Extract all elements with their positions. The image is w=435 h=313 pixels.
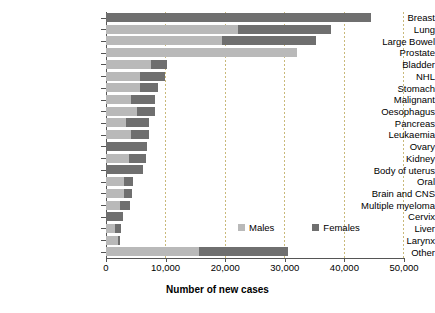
bar-segment-females — [106, 142, 147, 151]
bar-segment-females — [118, 236, 120, 245]
bar-segment-males — [106, 189, 124, 198]
bar-segment-females — [106, 212, 123, 221]
y-axis-label: Body of uterus — [335, 166, 435, 176]
y-axis-label: Cervix — [335, 212, 435, 222]
bar-segment-males — [106, 25, 238, 34]
bar-segment-females — [120, 201, 130, 210]
y-axis-label: Prostate — [335, 48, 435, 58]
y-axis-label: Multiple myeloma — [335, 201, 435, 211]
bar-segment-males — [106, 177, 124, 186]
bar-segment-males — [106, 154, 129, 163]
bar-segment-males — [106, 130, 131, 139]
bar-segment-females — [140, 72, 165, 81]
bar-segment-males — [106, 224, 115, 233]
bar-segment-females — [140, 83, 158, 92]
bar-segment-females — [106, 165, 143, 174]
y-axis-label: Ovary — [335, 142, 435, 152]
cancer-incidence-bar-chart: BreastLungLarge BowelProstateBladderNHLS… — [0, 0, 435, 313]
x-axis-title: Number of new cases — [0, 284, 435, 295]
x-axis-tick-label: 0 — [103, 262, 108, 273]
bar-segment-males — [106, 236, 118, 245]
y-axis-label: Malignant — [335, 95, 435, 105]
bar-segment-females — [199, 247, 288, 256]
bar-segment-males — [106, 107, 137, 116]
bar-segment-males — [106, 60, 151, 69]
y-axis-tick — [101, 76, 106, 77]
y-axis-label: Bladder — [335, 60, 435, 70]
y-axis-tick — [101, 29, 106, 30]
x-axis-tick-label: 50,000 — [389, 262, 418, 273]
legend-label-females: Females — [323, 222, 359, 233]
bar-segment-males — [106, 247, 199, 256]
y-axis-label: Large Bowel — [335, 37, 435, 47]
bar-segment-males — [106, 201, 120, 210]
bar-segment-females — [124, 177, 133, 186]
males-swatch-icon — [238, 224, 245, 231]
y-axis-label: Oral — [335, 177, 435, 187]
y-axis-tick — [101, 228, 106, 229]
y-axis-tick — [101, 53, 106, 54]
y-axis-tick — [101, 88, 106, 89]
y-axis-tick — [101, 240, 106, 241]
y-axis-tick — [101, 170, 106, 171]
bar-segment-females — [131, 130, 149, 139]
legend-item-females: Females — [312, 222, 359, 233]
y-axis-tick — [101, 135, 106, 136]
bar-segment-males — [106, 48, 297, 57]
y-axis-tick — [101, 146, 106, 147]
females-swatch-icon — [312, 224, 319, 231]
y-axis-tick — [101, 205, 106, 206]
bar-segment-females — [115, 224, 121, 233]
y-axis-tick — [101, 158, 106, 159]
bar-segment-males — [106, 36, 222, 45]
bar-segment-females — [137, 107, 155, 116]
y-axis-label: Other — [335, 248, 435, 258]
y-axis-label: NHL — [335, 72, 435, 82]
y-axis-tick — [101, 252, 106, 253]
y-axis-label: Brain and CNS — [335, 189, 435, 199]
y-axis-tick — [101, 193, 106, 194]
y-axis-label: Breast — [335, 13, 435, 23]
bar-segment-males — [106, 72, 140, 81]
x-axis-tick-label: 10,000 — [151, 262, 180, 273]
bar-segment-females — [126, 118, 149, 127]
y-axis-label: Lung — [335, 25, 435, 35]
x-axis-tick-label: 20,000 — [211, 262, 240, 273]
bar-segment-females — [222, 36, 316, 45]
bar-segment-females — [124, 189, 132, 198]
legend-item-males: Males — [238, 222, 274, 233]
y-axis-tick — [101, 217, 106, 218]
y-axis-tick — [101, 18, 106, 19]
y-axis-tick — [101, 111, 106, 112]
bar-segment-females — [106, 13, 371, 22]
bar-segment-females — [151, 60, 167, 69]
y-axis-label: Larynx — [335, 236, 435, 246]
bar-segment-males — [106, 118, 126, 127]
y-axis-label: Kidney — [335, 154, 435, 164]
bar-segment-females — [129, 154, 146, 163]
bar-segment-males — [106, 83, 140, 92]
y-axis-label: Leukaemia — [335, 130, 435, 140]
x-axis-tick-label: 40,000 — [330, 262, 359, 273]
y-axis-label: Stomach — [335, 84, 435, 94]
bar-segment-females — [131, 95, 155, 104]
bar-segment-males — [106, 95, 131, 104]
y-axis-tick — [101, 100, 106, 101]
x-axis-tick-label: 30,000 — [270, 262, 299, 273]
y-axis-tick — [101, 41, 106, 42]
bar-segment-females — [238, 25, 330, 34]
y-axis-tick — [101, 64, 106, 65]
y-axis-label: Oesophagus — [335, 107, 435, 117]
y-axis-label: Pancreas — [335, 119, 435, 129]
x-axis-line — [106, 258, 405, 259]
y-axis-tick — [101, 123, 106, 124]
y-axis-tick — [101, 182, 106, 183]
legend-label-males: Males — [249, 222, 274, 233]
chart-legend: Males Females — [238, 222, 360, 233]
